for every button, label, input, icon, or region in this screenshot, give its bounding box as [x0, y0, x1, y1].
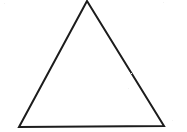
triangle-figure — [0, 0, 187, 132]
figure-canvas — [0, 0, 187, 132]
